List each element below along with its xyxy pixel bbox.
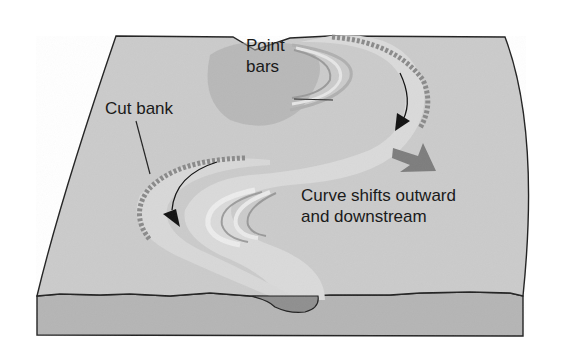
curve-shift-text-line1: Curve shifts outward — [301, 185, 456, 206]
point-bars-text-line2: bars — [246, 56, 285, 77]
meander-diagram: Cut bank Point bars Curve shifts outward… — [0, 0, 584, 358]
point-bars-label: Point bars — [246, 35, 285, 77]
meander-illustration — [0, 0, 584, 358]
cut-bank-label: Cut bank — [105, 98, 173, 119]
curve-shift-label: Curve shifts outward and downstream — [301, 185, 456, 227]
cut-bank-text: Cut bank — [105, 99, 173, 118]
point-bars-text-line1: Point — [246, 35, 285, 56]
curve-shift-text-line2: and downstream — [301, 206, 456, 227]
